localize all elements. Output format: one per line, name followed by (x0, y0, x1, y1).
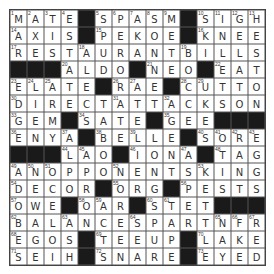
grid-cell[interactable]: Y (214, 248, 231, 265)
grid-cell[interactable]: 70L (197, 231, 214, 248)
grid-cell[interactable]: E (27, 44, 44, 61)
grid-cell[interactable]: E (27, 180, 44, 197)
grid-cell[interactable]: R (78, 180, 95, 197)
grid-cell[interactable]: N (214, 27, 231, 44)
grid-cell[interactable]: 62B (10, 214, 27, 231)
grid-cell[interactable]: E (231, 27, 248, 44)
grid-cell[interactable]: 56P (180, 180, 197, 197)
grid-cell[interactable]: 19B (180, 44, 197, 61)
grid-cell[interactable]: 33G (10, 112, 27, 129)
grid-cell[interactable]: 42R (231, 129, 248, 146)
grid-cell[interactable]: K (231, 231, 248, 248)
grid-cell[interactable]: A (231, 61, 248, 78)
grid-cell[interactable]: N (112, 248, 129, 265)
grid-cell[interactable]: K (197, 95, 214, 112)
grid-cell[interactable]: 61T (163, 197, 180, 214)
grid-cell[interactable]: 39L (129, 129, 146, 146)
grid-cell[interactable]: T (163, 163, 180, 180)
grid-cell[interactable]: I (27, 95, 44, 112)
grid-cell[interactable]: T (197, 197, 214, 214)
grid-cell[interactable]: 58O (78, 197, 95, 214)
grid-cell[interactable]: E (112, 231, 129, 248)
grid-cell[interactable]: 28C (180, 78, 197, 95)
grid-cell[interactable]: S (248, 180, 265, 197)
grid-cell[interactable]: O (248, 78, 265, 95)
grid-cell[interactable]: N (146, 163, 163, 180)
grid-cell[interactable]: O (231, 95, 248, 112)
grid-cell[interactable]: N (248, 95, 265, 112)
grid-cell[interactable]: E (180, 197, 197, 214)
grid-cell[interactable]: A (163, 214, 180, 231)
grid-cell[interactable]: 48T (214, 146, 231, 163)
grid-cell[interactable]: S (214, 180, 231, 197)
grid-cell[interactable]: 49A (10, 163, 27, 180)
grid-cell[interactable]: 43E (248, 129, 265, 146)
grid-cell[interactable]: 50N (27, 163, 44, 180)
grid-cell[interactable]: C (180, 95, 197, 112)
grid-cell[interactable]: S (44, 44, 61, 61)
grid-cell[interactable]: E (112, 214, 129, 231)
grid-cell[interactable]: E (180, 112, 197, 129)
grid-cell[interactable]: C (78, 95, 95, 112)
grid-cell[interactable]: 65N (214, 214, 231, 231)
grid-cell[interactable]: 72S (95, 248, 112, 265)
grid-cell[interactable]: E (197, 112, 214, 129)
grid-cell[interactable]: 10S (197, 10, 214, 27)
grid-cell[interactable]: E (129, 231, 146, 248)
grid-cell[interactable]: 2A (27, 10, 44, 27)
grid-cell[interactable]: T (112, 112, 129, 129)
grid-cell[interactable]: 9M (163, 10, 180, 27)
grid-cell[interactable]: 32A (163, 95, 180, 112)
grid-cell[interactable]: 68E (10, 231, 27, 248)
grid-cell[interactable]: G (146, 180, 163, 197)
grid-cell[interactable]: L (78, 61, 95, 78)
grid-cell[interactable]: A (231, 146, 248, 163)
grid-cell[interactable]: A (129, 248, 146, 265)
grid-cell[interactable]: 45A (78, 146, 95, 163)
grid-cell[interactable]: 60S (146, 197, 163, 214)
grid-cell[interactable]: E (78, 78, 95, 95)
grid-cell[interactable]: A (214, 231, 231, 248)
grid-cell[interactable]: O (95, 163, 112, 180)
grid-cell[interactable]: T (231, 180, 248, 197)
grid-cell[interactable]: I (197, 44, 214, 61)
grid-cell[interactable]: E (61, 95, 78, 112)
grid-cell[interactable]: M (44, 112, 61, 129)
grid-cell[interactable]: 53K (197, 163, 214, 180)
grid-cell[interactable]: 22E (214, 61, 231, 78)
grid-cell[interactable]: C (95, 214, 112, 231)
grid-cell[interactable]: S (61, 27, 78, 44)
grid-cell[interactable]: C (44, 180, 61, 197)
grid-cell[interactable]: 20A (61, 61, 78, 78)
grid-cell[interactable]: E (163, 248, 180, 265)
grid-cell[interactable]: L (44, 214, 61, 231)
grid-cell[interactable]: 18A (78, 44, 95, 61)
grid-cell[interactable]: S (180, 163, 197, 180)
grid-cell[interactable]: L (214, 44, 231, 61)
grid-cell[interactable]: 67R (248, 214, 265, 231)
grid-cell[interactable]: T (214, 78, 231, 95)
grid-cell[interactable]: E (163, 129, 180, 146)
grid-cell[interactable]: 47A (180, 146, 197, 163)
grid-cell[interactable]: 13H (248, 10, 265, 27)
grid-cell[interactable]: T (61, 78, 78, 95)
grid-cell[interactable]: 29U (197, 78, 214, 95)
grid-cell[interactable]: E (112, 27, 129, 44)
grid-cell[interactable]: 27A (129, 78, 146, 95)
grid-cell[interactable]: 35G (163, 112, 180, 129)
grid-cell[interactable]: 30D (10, 95, 27, 112)
grid-cell[interactable]: T (129, 95, 146, 112)
grid-cell[interactable]: 44L (61, 146, 78, 163)
grid-cell[interactable]: I (44, 248, 61, 265)
grid-cell[interactable]: R (112, 44, 129, 61)
grid-cell[interactable]: 34S (78, 112, 95, 129)
grid-cell[interactable]: O (180, 61, 197, 78)
grid-cell[interactable]: 21N (146, 61, 163, 78)
grid-cell[interactable]: L (146, 129, 163, 146)
grid-cell[interactable]: 55O (112, 180, 129, 197)
grid-cell[interactable]: T (231, 78, 248, 95)
grid-cell[interactable]: E (197, 180, 214, 197)
grid-cell[interactable]: 1M (10, 10, 27, 27)
grid-cell[interactable]: 38B (95, 129, 112, 146)
grid-cell[interactable]: D (95, 61, 112, 78)
